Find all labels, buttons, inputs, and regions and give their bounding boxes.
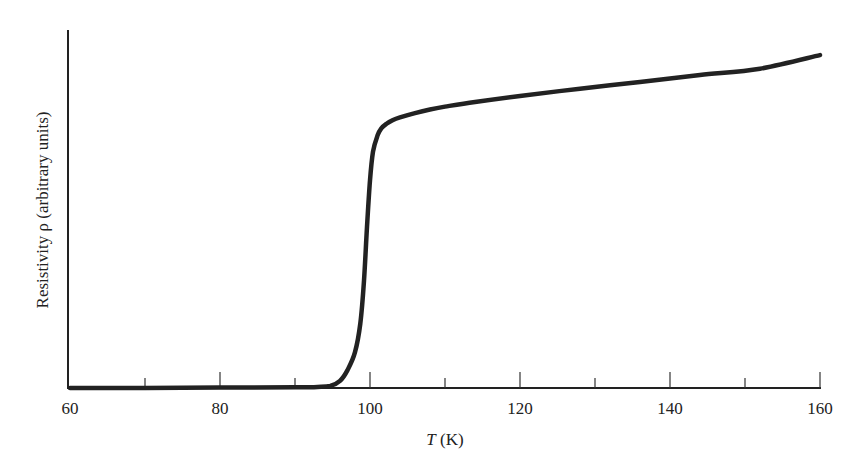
x-tick-label: 100	[357, 399, 383, 418]
resistivity-curve	[70, 55, 820, 388]
resistivity-chart: 6080100120140160 T (K) Resistivity ρ (ar…	[0, 0, 856, 470]
x-tick-label: 80	[212, 399, 229, 418]
x-axis-label: T (K)	[426, 430, 463, 449]
y-axis-label: Resistivity ρ (arbitrary units)	[33, 112, 52, 309]
x-tick-label: 120	[507, 399, 533, 418]
x-tick-label: 160	[807, 399, 833, 418]
x-axis-tick-labels: 6080100120140160	[62, 399, 833, 418]
x-tick-label: 60	[62, 399, 79, 418]
x-tick-label: 140	[657, 399, 683, 418]
axes	[67, 30, 821, 389]
